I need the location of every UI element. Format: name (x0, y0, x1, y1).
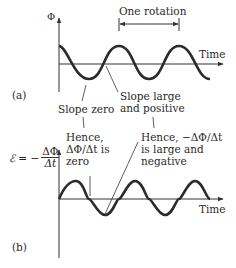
slope-zero-pointer (82, 85, 86, 101)
phi-axis-label: Φ (47, 11, 55, 23)
hence-zero-connector (83, 117, 84, 128)
hence-zero-line3: zero (66, 156, 89, 168)
panel-a-label: (a) (12, 90, 26, 102)
hence-zero-line1: Hence, (66, 132, 104, 144)
flux-curve (59, 46, 210, 79)
hence-negative-connector (153, 117, 154, 128)
slope-large-label-line1: Slope large (120, 91, 181, 103)
slope-large-pointer (106, 66, 118, 92)
hence-negative-line3: negative (141, 156, 187, 168)
emf-curve (59, 181, 210, 215)
emf-prefix: ℰ = − (9, 152, 39, 164)
hence-zero-line2: ΔΦ/Δt is (66, 144, 110, 156)
hence-negative-line1: Hence, −ΔΦ/Δt (141, 132, 222, 144)
slope-zero-label: Slope zero (58, 104, 114, 116)
hence-negative-line2: is large and (141, 144, 204, 156)
slope-large-label-line2: and positive (120, 103, 185, 115)
one-rotation-label: One rotation (119, 6, 186, 18)
hence-negative-pointer (105, 142, 138, 214)
panel-b-label: (b) (12, 242, 27, 254)
emf-denominator: Δt (44, 158, 56, 169)
time-axis-label-a: Time (199, 49, 226, 61)
time-axis-label-b: Time (199, 204, 226, 216)
emf-axis-label: ℰ = − ΔΦ Δt (9, 146, 59, 169)
